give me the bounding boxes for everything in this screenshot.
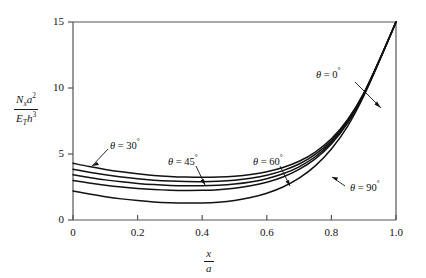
- x-axis-numerator: x: [204, 248, 214, 262]
- x-axis-label: x a: [204, 248, 214, 274]
- y-axis-label: Nxa2 ETh3: [14, 92, 38, 126]
- chart-figure: Nxa2 ETh3 x a 05101500.20.40.60.81.0 θ =…: [0, 0, 426, 278]
- curve-0-deg: [73, 22, 396, 177]
- curve-60-deg: [73, 22, 396, 190]
- y-tick-label: 0: [0, 213, 64, 225]
- theta-45-label: θ = 45°: [168, 153, 198, 167]
- y-tick-label: 5: [0, 147, 64, 159]
- x-tick-label: 0.8: [311, 226, 351, 238]
- theta-60-label: θ = 60°: [253, 153, 283, 167]
- x-tick-label: 0.4: [182, 226, 222, 238]
- leader-theta-30: [92, 149, 108, 166]
- data-curves: [73, 22, 396, 203]
- x-tick-label: 0.2: [118, 226, 158, 238]
- x-tick-label: 0.6: [247, 226, 287, 238]
- theta-0-label: θ = 0°: [316, 66, 341, 80]
- curve-45-deg: [73, 22, 396, 186]
- x-axis-denominator: a: [204, 262, 214, 275]
- x-tick-label: 1.0: [376, 226, 416, 238]
- y-tick-label: 15: [0, 15, 64, 27]
- y-tick-label: 10: [0, 81, 64, 93]
- x-tick-label: 0: [53, 226, 93, 238]
- y-axis-numerator: Nxa2: [14, 92, 38, 110]
- theta-90-label: θ = 90°: [350, 179, 380, 193]
- y-axis-denominator: ETh3: [14, 110, 38, 127]
- x-axis-ticks: [73, 215, 396, 220]
- curve-30-deg: [73, 22, 396, 182]
- theta-30-label: θ = 30°: [110, 137, 140, 151]
- y-axis-ticks: [68, 22, 73, 220]
